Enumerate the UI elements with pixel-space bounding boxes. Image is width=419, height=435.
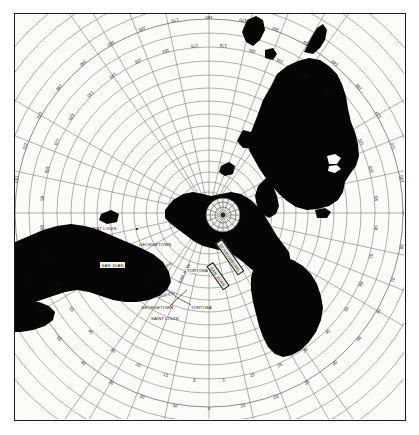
station-label-georgetown-upper: GEORGETOWN — [139, 242, 171, 247]
station-label-san-juan-boxed: SAN JUAN — [99, 261, 126, 269]
station-marker-san-juan — [140, 263, 142, 265]
azimuth-tick-label: 175 — [219, 43, 227, 49]
map-figure-page: 0551010151520202525303035354040454550505… — [0, 0, 419, 435]
azimuth-tick-label: 90 — [15, 211, 16, 216]
map-frame-border: 0551010151520202525303035354040454550505… — [14, 13, 406, 421]
station-label-tortosa-mid: TORTOSA — [186, 268, 209, 273]
compass-rose — [206, 198, 240, 232]
station-label-tortosa-lower: TORTOSA — [191, 305, 212, 310]
azimuth-tick-label: 90 — [402, 210, 404, 215]
azimuth-tick-label: 180 — [205, 15, 213, 20]
azimuth-tick-label: 175 — [190, 43, 198, 49]
station-label-saint-louis-upper: SAINT LOUIS — [89, 226, 117, 231]
azimuthal-map-canvas: 0551010151520202525303035354040454550505… — [15, 14, 404, 419]
azimuth-tick-label: 100 — [15, 175, 19, 184]
station-label-saint-louis-lower: SAINT LOUIS — [151, 316, 179, 321]
station-marker-saint-louis-upper — [136, 228, 138, 230]
station-label-georgetown-lower: GEORGETOWN — [141, 305, 173, 310]
azimuth-tick-label: 100 — [398, 174, 404, 183]
